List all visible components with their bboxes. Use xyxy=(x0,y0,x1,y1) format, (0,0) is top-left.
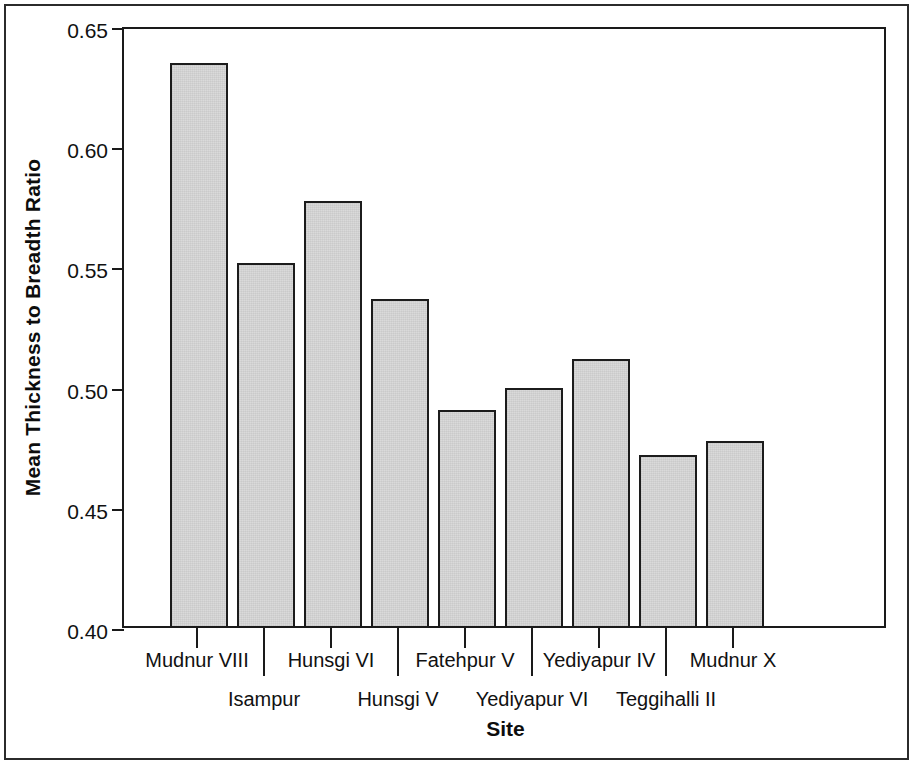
bar xyxy=(438,410,496,626)
y-axis-title: Mean Thickness to Breadth Ratio xyxy=(16,27,50,628)
x-tick-label: Hunsgi VI xyxy=(288,650,375,670)
y-tick-label: 0.55 xyxy=(67,260,108,281)
y-tick: 0.60 xyxy=(112,148,124,150)
y-tick: 0.65 xyxy=(112,28,124,30)
x-tick-label: Fatehpur V xyxy=(416,650,515,670)
y-tick: 0.45 xyxy=(112,509,124,511)
x-axis-title: Site xyxy=(0,717,913,741)
bar xyxy=(237,263,295,626)
x-tick xyxy=(732,628,734,648)
bar xyxy=(304,201,362,627)
x-tick xyxy=(531,628,533,676)
x-axis: Mudnur VIIIIsampurHunsgi VIHunsgi VFateh… xyxy=(122,628,886,728)
x-tick-label: Isampur xyxy=(228,689,300,709)
x-tick-label: Mudnur VIII xyxy=(145,650,248,670)
bar xyxy=(639,455,697,626)
y-tick: 0.55 xyxy=(112,268,124,270)
figure-container: Mean Thickness to Breadth Ratio 0.400.45… xyxy=(0,0,913,764)
plot-area: 0.400.450.500.550.600.65 xyxy=(122,27,886,628)
y-tick-label: 0.50 xyxy=(67,380,108,401)
y-tick-label: 0.65 xyxy=(67,20,108,41)
x-tick xyxy=(598,628,600,648)
y-tick-label: 0.45 xyxy=(67,500,108,521)
bar xyxy=(706,441,764,626)
bar xyxy=(371,299,429,626)
x-tick xyxy=(196,628,198,648)
bars-layer xyxy=(124,29,884,626)
x-tick-label: Yediyapur VI xyxy=(476,689,589,709)
bar xyxy=(170,63,228,626)
y-tick-label: 0.60 xyxy=(67,140,108,161)
x-tick xyxy=(330,628,332,648)
x-tick-label: Hunsgi V xyxy=(357,689,438,709)
x-tick xyxy=(263,628,265,676)
y-tick-label: 0.40 xyxy=(67,621,108,642)
x-tick-label: Mudnur X xyxy=(690,650,777,670)
x-tick xyxy=(464,628,466,648)
x-tick-label: Yediyapur IV xyxy=(543,650,656,670)
y-tick: 0.50 xyxy=(112,389,124,391)
x-axis-title-text: Site xyxy=(486,717,525,741)
bar xyxy=(505,388,563,626)
x-tick xyxy=(665,628,667,676)
x-tick xyxy=(397,628,399,676)
bar xyxy=(572,359,630,626)
x-tick-label: Teggihalli II xyxy=(616,689,716,709)
